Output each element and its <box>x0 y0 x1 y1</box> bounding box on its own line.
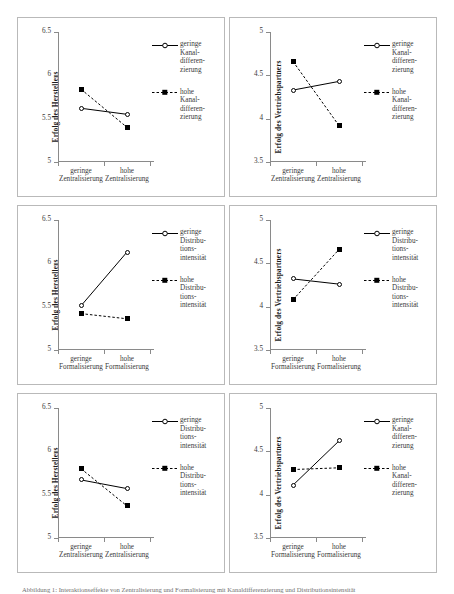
legend-entry: geringeKanal-differen-zierung <box>364 416 434 451</box>
x-axis-tick <box>150 161 151 166</box>
x-axis-category-label: geringeZentralisierung <box>59 543 103 560</box>
x-axis-category-label: hoheFormalisierung <box>105 355 149 372</box>
y-axis-tick-label: 5 <box>47 534 51 541</box>
legend-label: hoheKanal-differen-zierung <box>390 464 434 499</box>
x-axis-category-label: geringeFormalisierung <box>271 543 315 560</box>
x-axis-category-label: hoheZentralisierung <box>317 167 361 184</box>
legend-entry: geringeDistribu-tions-intensität <box>364 228 434 263</box>
y-axis-tick-label: 5.5 <box>42 303 51 310</box>
y-axis-tick-label: 3.5 <box>254 346 263 353</box>
legend: geringeDistribu-tions-intensitäthoheDist… <box>152 416 222 511</box>
legend-key-icon <box>364 88 390 97</box>
data-point-open-circle <box>125 486 130 491</box>
series-line <box>81 314 127 319</box>
y-axis-tick-label: 6 <box>47 448 51 455</box>
figure-container: Erfolg des Herstellers55.566.5geringeZen… <box>0 0 454 594</box>
series-line <box>81 89 127 127</box>
legend-key-icon <box>364 41 390 50</box>
legend-entry: hoheDistribu-tions-intensität <box>152 276 222 311</box>
legend-label: hoheDistribu-tions-intensität <box>178 276 222 311</box>
data-series <box>293 81 339 90</box>
y-axis-tick-label: 6.5 <box>42 216 51 223</box>
chart-panel-3: Erfolg des Herstellers55.566.5geringeFor… <box>17 205 225 385</box>
legend: geringeKanal-differen-zierunghoheKanal-d… <box>364 40 434 135</box>
x-axis-category-label: hoheFormalisierung <box>317 543 361 560</box>
legend-entry: geringeKanal-differen-zierung <box>152 40 222 75</box>
chart-panel-5: Erfolg des Herstellers55.566.5geringeZen… <box>17 393 225 573</box>
y-axis-tick-label: 4 <box>259 115 263 122</box>
series-layer <box>270 220 362 350</box>
x-axis-category-label: hoheZentralisierung <box>105 543 149 560</box>
y-axis-tick-label: 6.5 <box>42 28 51 35</box>
y-axis-tick-label: 4 <box>259 303 263 310</box>
series-line <box>293 61 339 125</box>
data-series <box>293 468 339 470</box>
y-axis-tick-label: 4 <box>259 491 263 498</box>
x-axis-category-label: geringeZentralisierung <box>59 167 103 184</box>
figure-caption: Abbildung 1: Interaktionseffekte von Zen… <box>22 586 434 594</box>
y-axis-tick-label: 6 <box>47 260 51 267</box>
x-axis-category-label: geringeFormalisierung <box>59 355 103 372</box>
plot-area: 3.544.55geringeFormalisierunghoheFormali… <box>270 408 362 538</box>
data-point-filled-square <box>337 247 342 252</box>
legend-key-icon <box>152 276 178 285</box>
legend-key-icon <box>364 417 390 426</box>
data-point-filled-square <box>79 87 84 92</box>
y-axis-tick-label: 4.5 <box>254 260 263 267</box>
y-axis-tick-label: 5.5 <box>42 491 51 498</box>
y-axis-tick-label: 3.5 <box>254 534 263 541</box>
data-point-filled-square <box>125 125 130 130</box>
y-axis-tick-label: 5 <box>259 28 263 35</box>
data-point-open-circle <box>79 303 84 308</box>
data-point-filled-square <box>79 466 84 471</box>
data-series <box>81 89 127 127</box>
series-line <box>293 249 339 299</box>
series-line <box>81 252 127 306</box>
legend-key-icon <box>364 464 390 473</box>
legend-entry: hoheDistribu-tions-intensität <box>152 464 222 499</box>
legend-entry: geringeKanal-differen-zierung <box>364 40 434 75</box>
legend-label: geringeDistribu-tions-intensität <box>178 416 222 451</box>
data-point-filled-square <box>291 297 296 302</box>
x-axis-tick <box>150 537 151 542</box>
legend-entry: hoheKanal-differen-zierung <box>152 88 222 123</box>
data-point-open-circle <box>125 112 130 117</box>
chart-panel-1: Erfolg des Herstellers55.566.5geringeZen… <box>17 17 225 197</box>
plot-area: 3.544.55geringeFormalisierunghoheFormali… <box>270 220 362 350</box>
panel-row-2: Erfolg des Herstellers55.566.5geringeFor… <box>17 205 437 385</box>
legend-label: hoheDistribu-tions-intensität <box>178 464 222 499</box>
data-point-open-circle <box>291 88 296 93</box>
legend-key-icon <box>152 417 178 426</box>
legend-key-icon <box>364 229 390 238</box>
legend-key-icon <box>152 41 178 50</box>
legend-entry: hoheKanal-differen-zierung <box>364 464 434 499</box>
data-series <box>81 480 127 489</box>
data-series <box>293 441 339 485</box>
y-axis-tick-label: 5 <box>47 158 51 165</box>
data-point-filled-square <box>337 465 342 470</box>
legend-key-icon <box>152 464 178 473</box>
data-series <box>293 61 339 125</box>
x-axis-tick <box>362 349 363 354</box>
data-point-filled-square <box>125 503 130 508</box>
legend-entry: hoheKanal-differen-zierung <box>364 88 434 123</box>
series-line <box>293 468 339 470</box>
plot-area: 55.566.5geringeZentralisierunghoheZentra… <box>58 32 150 162</box>
data-series <box>293 249 339 299</box>
x-axis-category-label: hoheZentralisierung <box>105 167 149 184</box>
data-series <box>81 314 127 319</box>
data-point-open-circle <box>337 282 342 287</box>
legend: geringeDistribu-tions-intensitäthoheDist… <box>152 228 222 323</box>
data-point-filled-square <box>125 316 130 321</box>
data-point-open-circle <box>291 483 296 488</box>
series-line <box>293 279 339 284</box>
legend-label: geringeDistribu-tions-intensität <box>178 228 222 263</box>
legend: geringeKanal-differen-zierunghoheKanal-d… <box>152 40 222 135</box>
y-axis-tick-label: 4.5 <box>254 72 263 79</box>
plot-area: 55.566.5geringeZentralisierunghoheZentra… <box>58 408 150 538</box>
legend-key-icon <box>364 276 390 285</box>
chart-panel-6: Erfolg des Vertriebspartners3.544.55geri… <box>229 393 437 573</box>
y-axis-tick-label: 5 <box>259 216 263 223</box>
data-point-open-circle <box>125 250 130 255</box>
legend-entry: geringeDistribu-tions-intensität <box>152 228 222 263</box>
